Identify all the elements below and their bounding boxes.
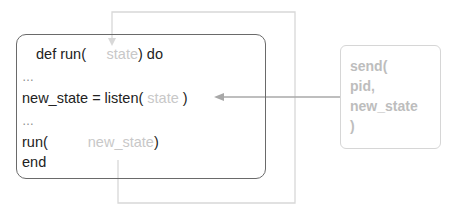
send-line-3: new_state xyxy=(350,97,418,115)
def-suffix-text: ) do xyxy=(138,46,163,62)
send-line-2: pid, xyxy=(350,77,375,95)
def-prefix-text: def run( xyxy=(36,46,86,62)
run-suffix-text: ) xyxy=(154,134,159,150)
def-run-line: def run(state) do xyxy=(36,45,163,63)
state-param-text: state xyxy=(90,45,138,63)
send-line-4: ) xyxy=(350,117,355,135)
ellipsis-1: … xyxy=(22,68,34,86)
run-call-line: run(new_state) xyxy=(22,133,159,151)
listen-suffix-text: ) xyxy=(183,90,188,106)
end-line: end xyxy=(22,153,46,171)
listen-prefix-text: new_state = listen( xyxy=(22,90,143,106)
new-state-arg-text: new_state xyxy=(88,134,154,150)
send-line-1: send( xyxy=(350,57,387,75)
ellipsis-2: … xyxy=(22,112,34,130)
run-prefix-text: run( xyxy=(22,134,48,150)
listen-line: new_state = listen( state ) xyxy=(22,89,188,107)
listen-state-arg-text: state xyxy=(143,90,183,106)
